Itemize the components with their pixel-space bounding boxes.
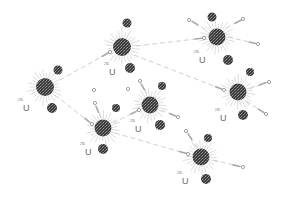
nucleus-label: 235U bbox=[18, 98, 30, 114]
spike bbox=[204, 166, 206, 173]
spike bbox=[116, 35, 118, 39]
spike bbox=[203, 41, 209, 44]
motion-streak bbox=[85, 118, 90, 122]
spike bbox=[131, 40, 140, 43]
motion-streak bbox=[249, 42, 255, 43]
neutron bbox=[241, 165, 244, 168]
nucleus-label: 235U bbox=[177, 171, 189, 187]
spike bbox=[247, 93, 255, 94]
spike bbox=[119, 56, 120, 60]
spike bbox=[35, 95, 40, 102]
spike bbox=[187, 161, 193, 164]
mass-number: 235 bbox=[104, 62, 109, 66]
spike bbox=[220, 22, 223, 28]
spike bbox=[33, 80, 37, 82]
spike bbox=[104, 40, 113, 43]
spike bbox=[225, 41, 230, 44]
spike bbox=[43, 70, 44, 78]
spike bbox=[230, 100, 233, 106]
nucleus-label: 235U bbox=[215, 108, 227, 124]
spike bbox=[35, 93, 38, 96]
motion-streak bbox=[216, 87, 222, 89]
spike bbox=[91, 133, 96, 136]
spike bbox=[126, 31, 130, 38]
spike bbox=[200, 33, 208, 35]
fission-fragment bbox=[238, 110, 248, 120]
spike bbox=[244, 82, 247, 85]
neutron bbox=[222, 88, 225, 91]
neutron bbox=[90, 122, 93, 125]
spike bbox=[110, 133, 116, 137]
uranium-nucleus bbox=[209, 29, 226, 46]
neutron bbox=[256, 42, 259, 45]
spike bbox=[46, 96, 47, 103]
motion-streak bbox=[235, 20, 241, 23]
spike bbox=[28, 83, 36, 85]
fission-fragment bbox=[208, 13, 217, 22]
spike bbox=[109, 118, 112, 121]
motion-streak bbox=[96, 106, 99, 112]
spike bbox=[200, 140, 201, 148]
neutron bbox=[176, 115, 179, 118]
spike bbox=[242, 77, 246, 84]
spike bbox=[118, 31, 120, 38]
spike bbox=[218, 24, 219, 28]
spike bbox=[87, 125, 94, 126]
neutron bbox=[92, 88, 95, 91]
neutron bbox=[267, 80, 270, 83]
fission-fragment bbox=[112, 104, 120, 112]
spike bbox=[114, 55, 117, 61]
element-symbol: U bbox=[85, 147, 92, 157]
neutron-path bbox=[134, 55, 224, 90]
fission-fragment bbox=[223, 55, 233, 65]
spike bbox=[215, 20, 216, 28]
fission-fragment bbox=[155, 120, 165, 130]
spike bbox=[191, 163, 194, 166]
spike bbox=[40, 73, 42, 78]
spike bbox=[234, 101, 235, 105]
spike bbox=[99, 137, 100, 141]
uranium-nucleus bbox=[193, 149, 210, 166]
uranium-nucleus bbox=[95, 120, 112, 137]
fission-fragment bbox=[98, 144, 108, 154]
neutron-path bbox=[136, 38, 204, 46]
spike bbox=[153, 114, 155, 121]
mass-number: 235 bbox=[18, 98, 23, 102]
spike bbox=[224, 27, 228, 31]
spike bbox=[54, 89, 61, 91]
neutron bbox=[184, 129, 187, 132]
spike bbox=[138, 98, 142, 100]
nucleus-label: 235U bbox=[130, 119, 142, 135]
spike bbox=[131, 48, 139, 49]
mass-number: 235 bbox=[80, 142, 85, 146]
spike bbox=[202, 144, 203, 148]
motion-streak bbox=[170, 114, 176, 116]
motion-streak bbox=[188, 134, 191, 140]
spike bbox=[110, 38, 115, 41]
spike bbox=[105, 114, 107, 119]
spike bbox=[124, 32, 125, 38]
spike bbox=[221, 85, 230, 88]
spike bbox=[225, 29, 232, 33]
spike bbox=[212, 23, 214, 28]
spike bbox=[52, 77, 56, 81]
spike bbox=[50, 95, 55, 102]
motion-streak bbox=[102, 53, 108, 56]
spike bbox=[215, 46, 216, 55]
spike bbox=[97, 116, 99, 120]
neutron bbox=[138, 79, 141, 82]
spike bbox=[112, 129, 120, 130]
fission-fragment bbox=[201, 174, 211, 184]
spike bbox=[108, 48, 112, 49]
spike bbox=[205, 31, 209, 33]
spike bbox=[210, 154, 214, 155]
neutron bbox=[264, 112, 267, 115]
spike bbox=[151, 114, 152, 121]
neutron bbox=[187, 18, 190, 21]
spike bbox=[33, 76, 38, 81]
spike bbox=[224, 43, 228, 47]
motion-streak bbox=[195, 38, 201, 39]
uranium-nucleus bbox=[142, 97, 159, 114]
spike bbox=[222, 44, 227, 51]
spike bbox=[232, 80, 234, 84]
